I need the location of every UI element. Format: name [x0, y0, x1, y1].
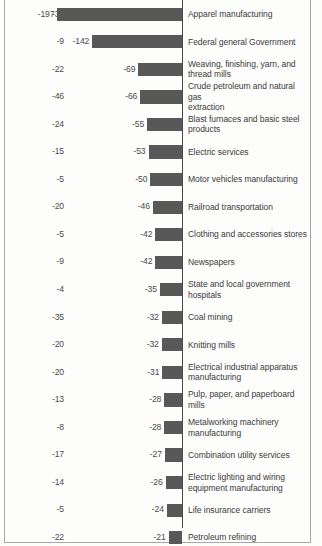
- chart-row: -35-32Coal mining: [0, 304, 322, 332]
- category-label-line: State and local government: [188, 279, 290, 290]
- category-label: Railroad transportation: [188, 193, 308, 221]
- category-label: Motor vehicles manufacturing: [188, 166, 308, 194]
- category-label-text: Combination utility services: [188, 450, 290, 461]
- bar-area: -42: [0, 221, 182, 249]
- bar-area: -66: [0, 83, 182, 111]
- bar: [166, 476, 182, 489]
- chart-row: -20-46Railroad transportation: [0, 193, 322, 221]
- bar: [155, 256, 182, 269]
- chart-row: -24-55Blast furnaces and basic steelprod…: [0, 111, 322, 139]
- bar: [164, 393, 182, 406]
- category-label-line: Federal general Government: [188, 37, 295, 48]
- category-label: Electric lighting and wiringequipment ma…: [188, 469, 308, 497]
- category-label: Federal general Government: [188, 28, 308, 56]
- chart-row: -22-21Petroleum refining: [0, 524, 322, 546]
- chart-row: -46-66Crude petroleum and natural gasext…: [0, 83, 322, 111]
- category-label-line: equipment manufacturing: [188, 483, 285, 494]
- category-label: Clothing and accessories stores: [188, 221, 308, 249]
- chart-row: -8-28Metalworking machinerymanufacturing: [0, 414, 322, 442]
- bar-value-label: -42: [118, 221, 152, 249]
- category-label: Electric services: [188, 138, 308, 166]
- bar: [155, 228, 182, 241]
- category-label-text: Clothing and accessories stores: [188, 229, 307, 240]
- bar-area: -27: [0, 441, 182, 469]
- chart-row: -17-27Combination utility services: [0, 441, 322, 469]
- bar: [153, 201, 182, 214]
- bar-value-label: -32: [125, 304, 159, 332]
- category-label: Weaving, finishing, yarn, andthread mill…: [188, 56, 308, 84]
- category-label: Electrical industrial apparatusmanufactu…: [188, 359, 308, 387]
- bar-value-label: -53: [112, 138, 146, 166]
- category-label-text: Life insurance carriers: [188, 505, 270, 516]
- category-label-line: Metalworking machinery: [188, 417, 279, 428]
- bar-value-label: -32: [125, 331, 159, 359]
- bar-value-label: -35: [123, 276, 157, 304]
- category-label-text: Knitting mills: [188, 340, 235, 351]
- bar: [150, 173, 182, 186]
- category-label-line: Life insurance carriers: [188, 505, 270, 516]
- bar: [167, 504, 182, 517]
- chart-row: -5-24Life insurance carriers: [0, 496, 322, 524]
- chart-row: -20-32Knitting mills: [0, 331, 322, 359]
- chart-rows-container: -36-197Apparel manufacturing-9-142Federa…: [0, 0, 322, 546]
- bar-area: -32: [0, 304, 182, 332]
- category-label-line: Weaving, finishing, yarn, and: [188, 59, 296, 70]
- category-label: Crude petroleum and natural gasextractio…: [188, 83, 308, 111]
- bar-value-label: -55: [110, 111, 144, 139]
- category-label-text: Electric services: [188, 147, 249, 158]
- category-label-line: products: [188, 124, 299, 135]
- category-label-text: Petroleum refining: [188, 532, 256, 543]
- chart-row: -14-26Electric lighting and wiringequipm…: [0, 469, 322, 497]
- chart-row: -9-42Newspapers: [0, 248, 322, 276]
- bar: [149, 145, 182, 158]
- category-label-line: Railroad transportation: [188, 202, 273, 213]
- category-label-text: Railroad transportation: [188, 202, 273, 213]
- chart-row: -36-197Apparel manufacturing: [0, 1, 322, 29]
- bar-value-label: -24: [130, 496, 164, 524]
- chart-row: -4-35State and local governmenthospitals: [0, 276, 322, 304]
- chart-row: -22-69Weaving, finishing, yarn, andthrea…: [0, 56, 322, 84]
- category-label-line: Electric lighting and wiring: [188, 472, 285, 483]
- bar: [92, 35, 182, 48]
- bar-area: -28: [0, 414, 182, 442]
- category-label-line: Crude petroleum and natural gas: [188, 81, 308, 102]
- category-label-text: Coal mining: [188, 312, 232, 323]
- category-label: Petroleum refining: [188, 524, 308, 546]
- category-label-line: manufacturing: [188, 428, 279, 439]
- bar: [57, 8, 182, 21]
- bar-value-label: -28: [127, 414, 161, 442]
- category-label-text: State and local governmenthospitals: [188, 279, 290, 300]
- category-label-line: Newspapers: [188, 257, 235, 268]
- bar-value-label: -21: [132, 524, 166, 546]
- category-label-line: Motor vehicles manufacturing: [188, 174, 298, 185]
- bar-area: -31: [0, 359, 182, 387]
- category-label-text: Pulp, paper, and paperboard mills: [188, 389, 308, 410]
- category-label-line: Petroleum refining: [188, 532, 256, 543]
- chart-row: -5-42Clothing and accessories stores: [0, 221, 322, 249]
- category-label: Pulp, paper, and paperboard mills: [188, 386, 308, 414]
- category-label-text: Newspapers: [188, 257, 235, 268]
- bar: [160, 283, 182, 296]
- category-label: Blast furnaces and basic steelproducts: [188, 111, 308, 139]
- bar-area: -197: [0, 1, 182, 29]
- bar-area: -24: [0, 496, 182, 524]
- category-label: Coal mining: [188, 304, 308, 332]
- bar-value-label: -142: [55, 28, 89, 56]
- category-label: Knitting mills: [188, 331, 308, 359]
- category-label-line: Electrical industrial apparatus: [188, 362, 297, 373]
- chart-row: -9-142Federal general Government: [0, 28, 322, 56]
- bar-area: -46: [0, 193, 182, 221]
- category-label-text: Apparel manufacturing: [188, 9, 272, 20]
- category-label-text: Federal general Government: [188, 37, 295, 48]
- category-label: State and local governmenthospitals: [188, 276, 308, 304]
- bar-area: -35: [0, 276, 182, 304]
- bar-value-label: -31: [125, 359, 159, 387]
- bar-area: -26: [0, 469, 182, 497]
- category-label: Newspapers: [188, 248, 308, 276]
- bar: [162, 338, 182, 351]
- category-label-line: Combination utility services: [188, 450, 290, 461]
- bar-value-label: -27: [128, 441, 162, 469]
- bar-value-label: -42: [118, 248, 152, 276]
- bar-value-label: -69: [101, 56, 135, 84]
- chart-row: -15-53Electric services: [0, 138, 322, 166]
